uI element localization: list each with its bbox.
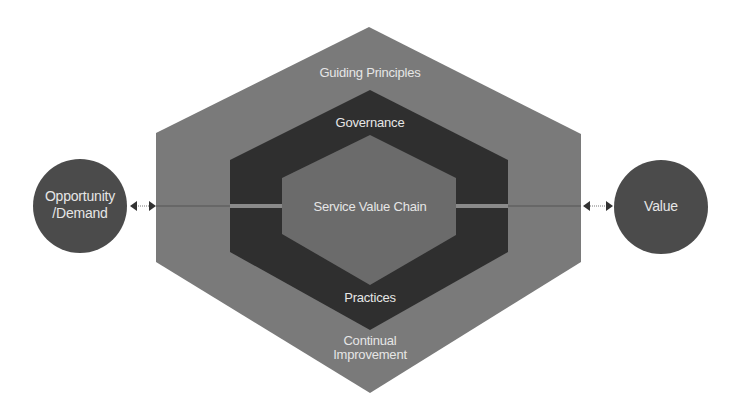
value-label: Value bbox=[644, 198, 678, 215]
connector-band-left bbox=[230, 204, 282, 208]
guiding-principles-label: Guiding Principles bbox=[319, 66, 420, 80]
continual-improvement-line2: Improvement bbox=[333, 348, 407, 362]
opportunity-demand-label: Opportunity /Demand bbox=[45, 188, 115, 222]
service-value-system-diagram: Guiding Principles Governance Service Va… bbox=[0, 0, 740, 416]
opportunity-demand-line1: Opportunity bbox=[45, 188, 115, 205]
service-value-chain-label: Service Value Chain bbox=[313, 200, 426, 214]
practices-label: Practices bbox=[344, 291, 396, 305]
left-bidirectional-arrow-icon bbox=[130, 201, 156, 211]
connector-band-right bbox=[456, 204, 508, 208]
governance-label: Governance bbox=[336, 116, 405, 130]
opportunity-demand-line2: /Demand bbox=[45, 205, 115, 222]
continual-improvement-label: Continual Improvement bbox=[333, 334, 407, 362]
right-bidirectional-arrow-icon bbox=[583, 201, 613, 211]
continual-improvement-line1: Continual bbox=[333, 334, 407, 348]
